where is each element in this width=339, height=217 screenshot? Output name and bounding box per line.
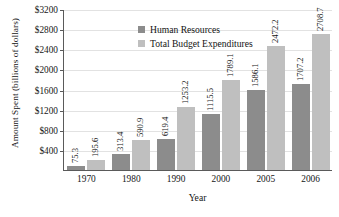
- x-axis-tick-label: 2006: [301, 174, 320, 184]
- bar-value-label: 1253.2: [180, 80, 190, 104]
- legend-swatch-icon: [138, 40, 145, 47]
- y-axis-tick-label: $3200: [35, 5, 58, 15]
- bar-chart: Amount Spent (billions of dollars) $400$…: [0, 0, 339, 217]
- bar: 1253.2: [177, 107, 195, 170]
- y-axis-tick-label: $1600: [35, 86, 58, 96]
- bar-value-label: 1586.1: [250, 64, 260, 88]
- legend-item: Human Resources: [138, 24, 253, 35]
- bar-value-label: 1707.2: [295, 57, 305, 81]
- x-axis-tick-label: 1980: [122, 174, 141, 184]
- chart-legend: Human ResourcesTotal Budget Expenditures: [138, 24, 253, 49]
- y-axis-tick-label: $2000: [35, 65, 58, 75]
- bar-value-label: 75.3: [71, 148, 81, 163]
- bar-group: 75.3195.6: [64, 10, 109, 170]
- bar: 1115.5: [202, 114, 220, 170]
- y-axis-tick-label: $2800: [35, 25, 58, 35]
- x-axis-tick-label: 1970: [77, 174, 96, 184]
- bar-value-label: 313.4: [115, 132, 125, 151]
- bar-value-label: 619.4: [160, 117, 170, 136]
- bar: 1789.1: [222, 80, 240, 170]
- bar-value-label: 1115.5: [205, 88, 215, 111]
- plot-area: $400$800$1200$1600$2000$2400$2800$3200 7…: [63, 10, 332, 171]
- x-axis-tick-label: 2000: [212, 174, 231, 184]
- bar-value-label: 195.6: [91, 138, 101, 157]
- bar: 2472.2: [267, 46, 285, 170]
- legend-label: Total Budget Expenditures: [150, 38, 253, 49]
- bar-value-label: 2708.7: [315, 7, 325, 31]
- bar-value-label: 2472.2: [270, 19, 280, 43]
- legend-label: Human Resources: [150, 24, 220, 35]
- y-axis-tick-label: $1200: [35, 106, 58, 116]
- bar: 195.6: [87, 160, 105, 170]
- y-axis-tick-label: $2400: [35, 45, 58, 55]
- bar-group: 1707.22708.7: [288, 10, 333, 170]
- bar: 313.4: [112, 154, 130, 170]
- bar: 2708.7: [312, 34, 330, 170]
- bar: 75.3: [67, 166, 85, 170]
- y-axis-title: Amount Spent (billions of dollars): [10, 0, 20, 168]
- y-axis-tick-label: $800: [39, 126, 58, 136]
- bar: 590.9: [132, 140, 150, 170]
- bar: 1586.1: [247, 90, 265, 170]
- bar: 619.4: [157, 139, 175, 170]
- legend-swatch-icon: [138, 26, 145, 33]
- x-axis-tick-label: 1990: [167, 174, 186, 184]
- x-axis-tick-label: 2005: [256, 174, 275, 184]
- bar-value-label: 590.9: [135, 118, 145, 137]
- bar-value-label: 1789.1: [225, 53, 235, 77]
- x-axis-title: Year: [63, 192, 332, 203]
- bar: 1707.2: [292, 84, 310, 170]
- legend-item: Total Budget Expenditures: [138, 38, 253, 49]
- y-axis-tick-label: $400: [39, 146, 58, 156]
